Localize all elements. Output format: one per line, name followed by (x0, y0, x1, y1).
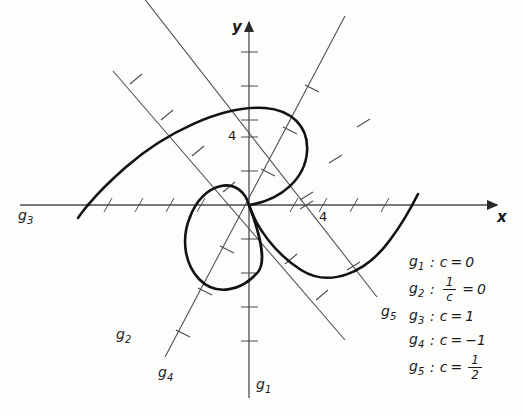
line-label-g1: g1 (256, 376, 271, 395)
line-label-g5-sub: 5 (390, 311, 396, 322)
legend-g2-colon: : (429, 281, 440, 297)
legend-g4-name: g4 (409, 331, 429, 350)
line-label-g2-name: g (116, 326, 125, 342)
line-label-g3: g3 (18, 207, 33, 226)
y-axis-label: y (232, 18, 242, 36)
legend-g5-fraction: 1 2 (468, 354, 482, 381)
line-label-g4-sub: 4 (167, 372, 173, 383)
strophoid-curve (78, 108, 418, 290)
legend-g1-expr: c = 0 (440, 254, 474, 270)
legend-g5-expr: c = 1 2 (440, 354, 485, 381)
figure-container: y x 4 4 g3 g1 g2 g4 g5 g1 : c = 0 g2 : (0, 0, 524, 416)
legend-row-g2: g2 : 1 c = 0 (409, 274, 521, 304)
legend-g2-denominator: c (443, 290, 456, 303)
legend-row-g4: g4 : c = −1 (409, 328, 521, 352)
legend-g2-fraction: 1 c (443, 276, 457, 303)
line-label-g2: g2 (116, 326, 131, 345)
legend-g4-lhs: c (440, 332, 448, 348)
line-g5 (136, 0, 377, 297)
legend-g2-eq: = (459, 281, 477, 297)
legend-g1-name: g1 (409, 253, 429, 272)
x-tick-label-4: 4 (319, 209, 327, 224)
legend-g3-name: g3 (409, 307, 429, 326)
legend-g1-lhs: c (440, 254, 448, 270)
legend-g3-lhs: c (440, 308, 448, 324)
legend-row-g1: g1 : c = 0 (409, 250, 521, 274)
line-label-g4: g4 (158, 364, 173, 383)
legend-row-g3: g3 : c = 1 (409, 304, 521, 328)
legend-g4-rhs: −1 (465, 332, 486, 348)
line-label-g4-name: g (158, 364, 167, 380)
legend: g1 : c = 0 g2 : 1 c = 0 g3 : (409, 250, 521, 382)
legend-g3-rhs: 1 (465, 308, 474, 324)
legend-row-g5: g5 : c = 1 2 (409, 352, 521, 382)
line-label-g3-name: g (18, 207, 27, 223)
legend-g5-denominator: 2 (468, 368, 482, 381)
legend-g4-eq: = (447, 332, 465, 348)
legend-g1-eq: = (447, 254, 465, 270)
legend-g2-numerator: 1 (443, 276, 457, 289)
legend-g5-name: g5 (409, 358, 429, 377)
legend-g4-expr: c = −1 (440, 332, 486, 348)
y-tick-label-4: 4 (228, 128, 236, 143)
line-label-g2-sub: 2 (125, 334, 131, 345)
legend-g2-name: g2 (409, 280, 429, 299)
legend-g5-numerator: 1 (468, 354, 482, 367)
legend-g5-lhs: c (440, 359, 448, 375)
legend-g2-rhs: 0 (477, 281, 486, 297)
legend-g4-colon: : (429, 332, 440, 348)
line-label-g1-sub: 1 (265, 384, 271, 395)
line-label-g5-name: g (381, 303, 390, 319)
legend-g3-eq: = (447, 308, 465, 324)
legend-g2-expr: 1 c = 0 (440, 276, 486, 303)
legend-g5-colon: : (429, 359, 440, 375)
line-g4 (165, 16, 345, 357)
x-axis-label: x (497, 208, 507, 226)
legend-g1-colon: : (429, 254, 440, 270)
legend-g1-rhs: 0 (465, 254, 474, 270)
legend-g3-colon: : (429, 308, 440, 324)
legend-g5-eq: = (447, 359, 465, 375)
line-label-g1-name: g (256, 376, 265, 392)
line-label-g5: g5 (381, 303, 396, 322)
line-label-g3-sub: 3 (27, 215, 33, 226)
legend-g3-expr: c = 1 (440, 308, 474, 324)
